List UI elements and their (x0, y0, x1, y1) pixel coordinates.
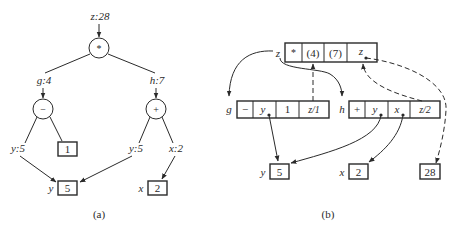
const-1-value: 1 (65, 143, 71, 155)
minus-y-label: y:5 (10, 142, 26, 154)
h-cell-left: y (372, 103, 378, 115)
h-label: h:7 (150, 74, 165, 86)
panel-a-tree: z:28 * g:4 − h:7 + y:5 1 y:5 x:2 y (10, 10, 184, 221)
g-cell-right: 1 (285, 103, 291, 115)
h-cell-value: z/2 (418, 104, 431, 115)
leaf-y-value: 5 (65, 182, 71, 194)
b-leaf-28-value: 28 (425, 166, 437, 178)
g-cell-op: − (242, 103, 248, 115)
minus-op: − (40, 104, 46, 115)
b-leaf-x-value: 2 (356, 166, 362, 178)
top-cell-left: (4) (307, 47, 320, 60)
g-label: g:4 (37, 74, 52, 86)
expression-dag-diagram: z:28 * g:4 − h:7 + y:5 1 y:5 x:2 y (0, 0, 456, 235)
plus-y-label: y:5 (128, 142, 144, 154)
g-record-name: g (226, 103, 232, 115)
caption-b: (b) (322, 208, 335, 221)
leaf-x-name: x (138, 182, 144, 194)
leaf-y-name: y (48, 182, 54, 194)
h-record-name: h (339, 103, 345, 115)
caption-a: (a) (93, 208, 106, 221)
panel-b-records: z * (4) (7) z g − y 1 z/1 h (226, 43, 446, 221)
g-cell-value: z/1 (307, 104, 320, 115)
root-label: z:28 (90, 10, 110, 22)
g-cell-left: y (260, 103, 266, 115)
h-record: + y x z/2 (349, 101, 440, 118)
plus-op: + (153, 104, 159, 115)
top-cell-value: z (358, 45, 364, 57)
h-cell-op: + (354, 103, 360, 115)
b-leaf-x-name: x (339, 166, 345, 178)
top-record-name: z (275, 47, 281, 59)
plus-x-label: x:2 (168, 142, 184, 154)
top-cell-right: (7) (329, 47, 342, 60)
top-cell-op: * (291, 47, 296, 58)
b-leaf-y-value: 5 (277, 166, 283, 178)
multiply-op: * (97, 43, 102, 54)
b-leaf-y-name: y (260, 166, 266, 178)
leaf-x-value: 2 (155, 182, 161, 194)
top-record: * (4) (7) z (285, 43, 377, 62)
g-record: − y 1 z/1 (237, 101, 329, 118)
h-cell-right: x (394, 103, 400, 115)
